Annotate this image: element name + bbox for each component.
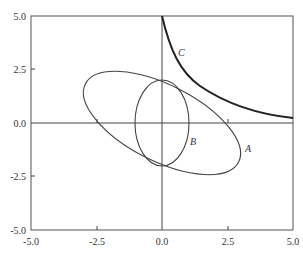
y-tick-label: 2.5 xyxy=(14,64,27,75)
curve-b-label: B xyxy=(190,136,196,147)
x-tick-label: -2.5 xyxy=(89,236,105,247)
x-tick-label: -5.0 xyxy=(23,236,39,247)
chart: -5.0 -2.5 0.0 2.5 5.0 5.0 2.5 0.0 -2.5 -… xyxy=(0,0,303,255)
curve-c-label: C xyxy=(178,47,185,58)
x-tick-label: 2.5 xyxy=(222,236,235,247)
y-tick-label: 0.0 xyxy=(14,118,27,129)
curve-a-label: A xyxy=(244,143,252,154)
curve-c xyxy=(162,16,293,118)
x-tick-label: 5.0 xyxy=(287,236,300,247)
y-tick-label: 5.0 xyxy=(14,11,27,22)
x-tick-label: 0.0 xyxy=(156,236,169,247)
y-tick-label: -2.5 xyxy=(10,171,26,182)
y-tick-label: -5.0 xyxy=(10,225,26,236)
